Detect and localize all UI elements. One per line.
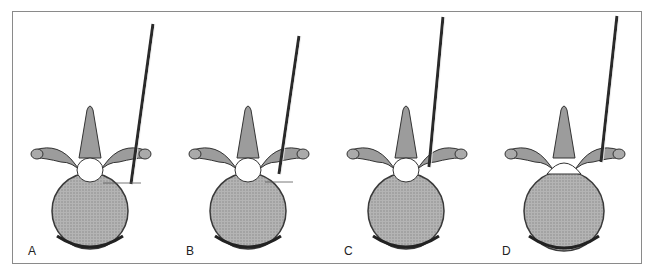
figure-frame: A B C [12, 11, 642, 264]
panel-label: C [344, 244, 353, 258]
panel-label: D [502, 244, 511, 258]
panel-d: D [487, 12, 645, 265]
panel-a: A [13, 12, 171, 265]
vertebra-illustration [13, 12, 171, 265]
panel-label: A [28, 244, 36, 258]
vertebra-illustration [171, 12, 329, 265]
panel-c: C [329, 12, 487, 265]
panel-b: B [171, 12, 329, 265]
panel-label: B [186, 244, 194, 258]
vertebra-illustration [487, 12, 645, 265]
vertebra-illustration [329, 12, 487, 265]
